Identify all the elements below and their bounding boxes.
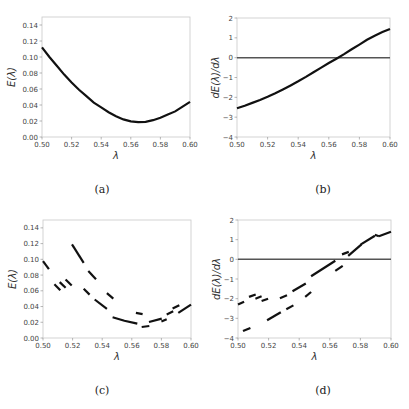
x-tick-label: 0.52 (65, 342, 81, 350)
series-segment (60, 282, 66, 288)
y-tick-label: 0.14 (23, 224, 39, 232)
x-tick-label: 0.60 (182, 141, 198, 149)
y-tick-label: −2 (223, 94, 233, 102)
x-tick-label: 0.56 (124, 342, 140, 350)
series-segment (243, 328, 250, 331)
panel-c: 0.500.520.540.560.580.600.000.020.040.06… (7, 220, 199, 397)
x-tick-label: 0.50 (230, 342, 246, 350)
x-tick-label: 0.60 (383, 342, 399, 350)
y-tick-label: −2 (224, 295, 234, 303)
x-tick-label: 0.58 (154, 342, 170, 350)
series-segment (267, 312, 281, 320)
y-axis-label: E(λ) (7, 269, 18, 289)
x-tick-label: 0.50 (229, 141, 245, 149)
panel-caption: (b) (315, 183, 331, 196)
x-axis-label: λ (310, 150, 317, 161)
x-tick-label: 0.50 (35, 342, 51, 350)
panel-caption: (c) (95, 384, 110, 397)
x-tick-label: 0.56 (322, 342, 338, 350)
y-tick-label: 0.04 (23, 303, 39, 311)
panel-b: 0.500.520.540.560.580.60−4−3−2−1012λdE(λ… (210, 15, 398, 197)
y-tick-label: 0.00 (23, 335, 39, 343)
y-tick-label: 0.02 (23, 319, 39, 327)
x-tick-label: 0.54 (290, 141, 306, 149)
y-tick-label: −4 (223, 134, 234, 142)
x-tick-label: 0.58 (153, 141, 169, 149)
x-tick-label: 0.50 (34, 141, 50, 149)
y-axis-label: dE(λ)/dλ (210, 56, 221, 98)
x-tick-label: 0.52 (64, 141, 80, 149)
series-segment (161, 319, 166, 321)
series-segment (305, 292, 311, 297)
series-segment (335, 266, 342, 271)
x-tick-label: 0.56 (321, 141, 337, 149)
figure: 0.500.520.540.560.580.600.000.020.040.06… (0, 0, 409, 409)
y-tick-label: 0.08 (22, 70, 38, 78)
y-axis-label: E(λ) (6, 67, 17, 87)
panel-caption: (a) (94, 183, 109, 196)
series-segment (107, 293, 113, 299)
x-tick-label: 0.56 (123, 141, 139, 149)
y-tick-label: 0.02 (22, 118, 38, 126)
y-tick-label: 0 (229, 54, 233, 62)
series-segment (54, 284, 60, 290)
x-tick-label: 0.54 (93, 141, 109, 149)
y-tick-label: 0.06 (22, 86, 38, 94)
series-segment (286, 305, 293, 309)
y-tick-label: −3 (223, 114, 233, 122)
y-tick-label: 0.08 (23, 272, 39, 280)
series-segment (342, 252, 349, 255)
y-tick-label: 0.12 (22, 38, 38, 46)
y-tick-label: 0.06 (23, 287, 39, 295)
series-segment (88, 271, 96, 279)
y-tick-label: 0.10 (23, 256, 39, 264)
series-segment (167, 311, 174, 314)
y-axis-label: dE(λ)/dλ (211, 258, 222, 300)
axes-frame (43, 220, 191, 338)
series-segment (84, 289, 90, 295)
y-tick-label: −1 (223, 74, 233, 82)
y-tick-label: 0.12 (23, 240, 39, 248)
x-tick-label: 0.54 (94, 342, 110, 350)
series-segment (149, 319, 162, 322)
x-tick-label: 0.60 (382, 141, 398, 149)
y-tick-label: 1 (230, 236, 234, 244)
y-tick-label: 0 (230, 256, 234, 264)
series-segment (280, 295, 287, 298)
series-segment (66, 280, 72, 286)
y-tick-label: 2 (229, 15, 233, 23)
axes-frame (42, 17, 190, 137)
series-segment (178, 305, 191, 313)
series-segment (293, 284, 306, 292)
series-segment (348, 244, 361, 255)
x-axis-label: λ (112, 150, 119, 161)
series-segment (113, 317, 138, 323)
series-segment (173, 305, 180, 308)
series-segment (72, 244, 84, 262)
x-tick-label: 0.60 (183, 342, 199, 350)
series-line (237, 29, 390, 108)
series-segment (142, 326, 150, 327)
y-tick-label: 0.00 (22, 134, 38, 142)
x-axis-label: λ (311, 351, 318, 362)
panel-caption: (d) (315, 384, 331, 397)
y-tick-label: −1 (224, 276, 234, 284)
y-tick-label: 2 (230, 217, 234, 225)
x-axis-label: λ (113, 351, 120, 362)
axes-frame (238, 220, 391, 338)
y-tick-label: −4 (224, 335, 235, 343)
y-tick-label: 1 (229, 34, 233, 42)
series-segment (379, 232, 391, 237)
y-tick-label: 0.04 (22, 102, 38, 110)
series-segment (238, 302, 244, 305)
series-segment (361, 236, 375, 245)
panel-d: 0.500.520.540.560.580.60−4−3−2−1012λdE(λ… (211, 217, 399, 398)
y-tick-label: 0.10 (22, 54, 38, 62)
x-tick-label: 0.52 (260, 141, 276, 149)
series-segment (136, 313, 143, 314)
series-line (42, 47, 190, 122)
series-segment (262, 299, 269, 301)
x-tick-label: 0.54 (291, 342, 307, 350)
x-tick-label: 0.58 (352, 141, 368, 149)
series-segment (375, 235, 379, 237)
